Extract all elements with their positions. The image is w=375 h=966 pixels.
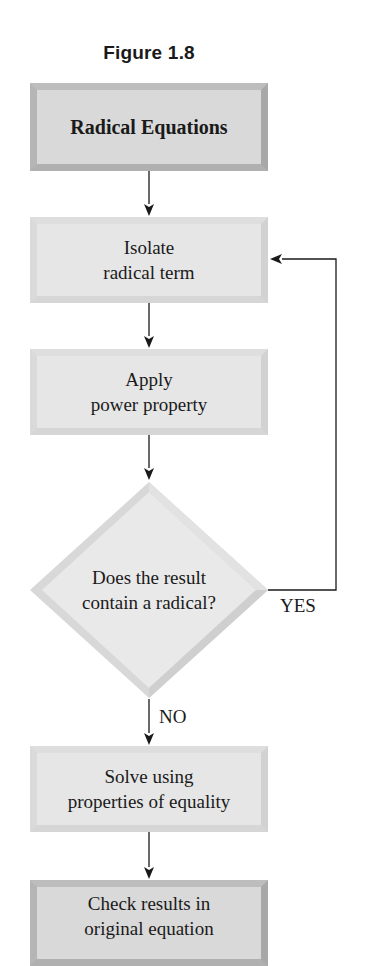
arrow-down-icon [144,171,154,216]
start-box-label: Radical Equations [70,115,227,140]
step-box-apply-power: Apply power property [30,349,268,435]
step-box-line-1: Apply [91,367,208,392]
step-box-line-1: Isolate [103,235,194,260]
arrow-down-icon [144,435,154,480]
decision-diamond: Does the result contain a radical? [30,482,268,698]
arrow-down-icon [144,699,154,745]
step-box-solve: Solve using properties of equality [30,746,268,832]
start-box-radical-equations: Radical Equations [30,83,268,171]
arrow-down-icon [144,832,154,879]
end-box-line-1: Check results in [84,891,213,916]
end-box-line-2: original equation [84,916,213,941]
end-box-check-results: Check results in original equation [30,880,268,966]
step-box-line-2: radical term [103,260,194,285]
yes-label: YES [280,596,316,616]
no-label: NO [159,707,186,727]
decision-line-2: contain a radical? [82,590,216,615]
step-box-line-1: Solve using [68,764,231,789]
yes-loop-arrow [268,254,336,590]
step-box-line-2: power property [91,392,208,417]
arrow-down-icon [144,303,154,348]
figure-title: Figure 1.8 [0,42,298,64]
decision-line-1: Does the result [92,565,206,590]
step-box-line-2: properties of equality [68,789,231,814]
step-box-isolate-radical: Isolate radical term [30,217,268,303]
